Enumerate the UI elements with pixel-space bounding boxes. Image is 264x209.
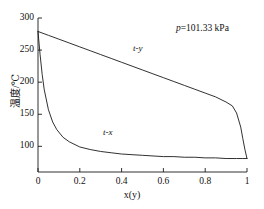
x-tick-label: 0 — [23, 177, 53, 187]
series-line-t-y — [38, 31, 247, 158]
x-axis-title: x(y) — [0, 190, 264, 200]
axis-lines — [38, 18, 247, 172]
pressure-annotation: p=101.33 kPa — [176, 24, 229, 34]
y-tick-label: 300 — [4, 13, 34, 23]
series-label-t-y: t-y — [133, 44, 143, 53]
y-tick-label: 100 — [4, 141, 34, 151]
x-tick-label: 0.6 — [148, 177, 178, 187]
x-tick-label: 0.8 — [190, 177, 220, 187]
pressure-value: =101.33 kPa — [181, 23, 229, 33]
series-line-t-x — [38, 31, 247, 158]
data-curves — [38, 31, 247, 158]
x-tick-label: 0.4 — [107, 177, 137, 187]
y-tick-label: 250 — [4, 45, 34, 55]
x-tick-label: 0.2 — [65, 177, 95, 187]
x-tick-label: 1 — [232, 177, 262, 187]
y-axis-title: 温度/℃ — [11, 61, 21, 121]
x-axis-tick-marks — [38, 168, 247, 172]
figure-container: 100150200250300 00.20.40.60.81 温度/℃ x(y)… — [0, 0, 264, 209]
series-label-t-x: t-x — [103, 128, 113, 137]
